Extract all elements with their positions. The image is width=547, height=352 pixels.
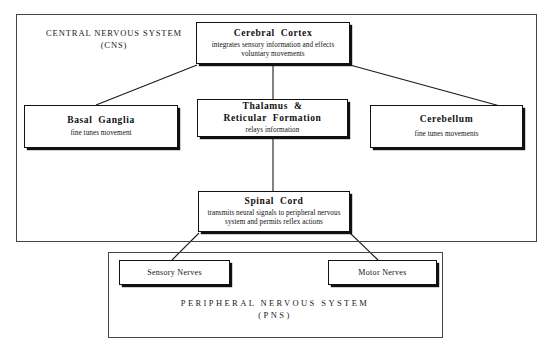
- node-sensory-nerves-title: Sensory Nerves: [147, 267, 202, 279]
- node-spinal-cord-title: Spinal Cord: [245, 196, 304, 208]
- node-cerebellum-title: Cerebellum: [420, 114, 473, 126]
- node-motor-nerves-title: Motor Nerves: [358, 267, 406, 279]
- node-cerebellum-description: fine tunes movements: [414, 130, 478, 139]
- node-cerebral-cortex-description: integrates sensory information and effec…: [201, 41, 345, 58]
- node-cerebellum[interactable]: Cerebellum fine tunes movements: [370, 105, 523, 148]
- node-thalamus-reticular-formation-description: relays information: [246, 126, 300, 135]
- node-cerebral-cortex[interactable]: Cerebral Cortex integrates sensory infor…: [196, 22, 350, 64]
- peripheral-nervous-system-label: PERIPHERAL NERVOUS SYSTEM (PNS): [150, 297, 400, 321]
- node-spinal-cord-description: transmits neural signals to peripheral n…: [203, 209, 345, 226]
- central-nervous-system-label: CENTRAL NERVOUS SYSTEM (CNS): [30, 27, 198, 51]
- node-cerebral-cortex-title: Cerebral Cortex: [234, 28, 313, 40]
- node-spinal-cord[interactable]: Spinal Cord transmits neural signals to …: [198, 191, 350, 232]
- node-basal-ganglia-title: Basal Ganglia: [67, 115, 135, 127]
- node-basal-ganglia[interactable]: Basal Ganglia fine tunes movement: [24, 105, 178, 148]
- node-thalamus-reticular-formation-title: Thalamus & Reticular Formation: [224, 101, 322, 124]
- node-basal-ganglia-description: fine tunes movement: [70, 129, 131, 138]
- node-motor-nerves[interactable]: Motor Nerves: [328, 260, 437, 285]
- diagram-canvas: CENTRAL NERVOUS SYSTEM (CNS) PERIPHERAL …: [0, 0, 547, 352]
- node-thalamus-reticular-formation[interactable]: Thalamus & Reticular Formation relays in…: [197, 99, 348, 137]
- node-sensory-nerves[interactable]: Sensory Nerves: [119, 260, 230, 285]
